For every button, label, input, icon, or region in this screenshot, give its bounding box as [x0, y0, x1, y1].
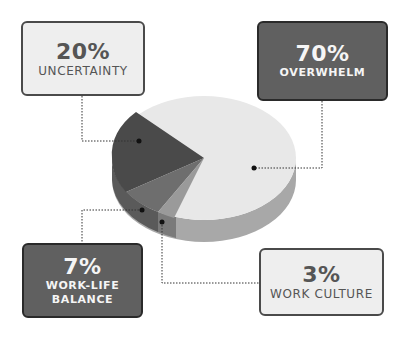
work-life-label-line2: BALANCE	[52, 293, 113, 307]
overwhelm-percent: 70%	[295, 42, 349, 66]
work-culture-percent: 3%	[302, 263, 340, 287]
dot-overwhelm	[252, 166, 257, 171]
work-culture-label: WORK CULTURE	[270, 287, 373, 301]
uncertainty-label: UNCERTAINTY	[38, 64, 128, 78]
pie-chart-infographic: 20% UNCERTAINTY 70% OVERWHELM 7% WORK-LI…	[0, 0, 409, 340]
work-life-percent: 7%	[63, 255, 101, 279]
callout-overwhelm: 70% OVERWHELM	[257, 21, 388, 101]
uncertainty-percent: 20%	[56, 40, 110, 64]
callout-work-life-balance: 7% WORK-LIFE BALANCE	[22, 243, 143, 318]
work-life-label-line1: WORK-LIFE	[46, 279, 120, 293]
callout-work-culture: 3% WORK CULTURE	[259, 248, 384, 316]
dot-uncertainty	[137, 139, 142, 144]
overwhelm-label: OVERWHELM	[280, 66, 366, 80]
dot-work-life	[140, 208, 145, 213]
callout-uncertainty: 20% UNCERTAINTY	[21, 21, 145, 96]
dot-work-culture	[160, 220, 165, 225]
